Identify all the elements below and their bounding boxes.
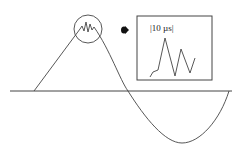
- wave-peak-noise: [80, 22, 94, 32]
- waveform-diagram: [0, 0, 240, 157]
- inset-time-scale-label: |10 µs|: [150, 24, 174, 33]
- arrow-marker-icon: [121, 26, 129, 34]
- inset-trace: [150, 38, 195, 77]
- zoom-circle: [74, 15, 102, 43]
- wave-rising-edge: [34, 29, 80, 91]
- inset-box: [137, 16, 212, 80]
- wave-falling-curve: [94, 27, 229, 143]
